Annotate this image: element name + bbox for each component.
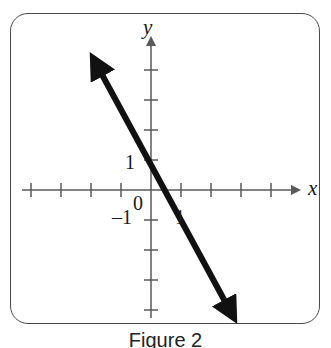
plotted-line (93, 58, 234, 318)
figure-caption: Figure 2 (0, 330, 331, 348)
y-tick-label-negative-1: –1 (112, 207, 132, 227)
coordinate-plot (0, 0, 331, 348)
y-tick-label-1: 1 (125, 152, 135, 172)
x-axis-label: x (308, 178, 317, 199)
figure-page: y x 1 0 –1 1 Figure 2 (0, 0, 331, 348)
x-tick-label-1: 1 (175, 207, 185, 227)
y-axis-label: y (143, 17, 152, 38)
origin-label: 0 (133, 193, 143, 213)
